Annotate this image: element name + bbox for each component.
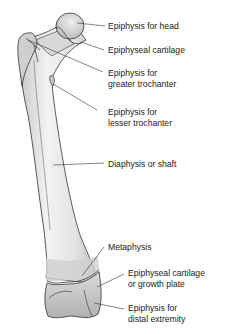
label-epiphysis-head: Epiphysis for head (108, 21, 179, 32)
label-diaphysis: Diaphysis or shaft (108, 159, 176, 170)
leader-lesser-trochanter (53, 84, 97, 110)
leader-growth-plate (97, 274, 124, 287)
label-epiphysis-lesser-trochanter: Epiphysis for lesser trochanter (108, 107, 172, 128)
label-epiphysis-greater-trochanter: Epiphysis for greater trochanter (108, 68, 176, 89)
label-epiphysis-distal: Epiphysis for distal extremity (128, 303, 185, 324)
label-metaphysis: Metaphysis (108, 242, 151, 253)
label-epiphyseal-cartilage-top: Epiphyseal cartilage (108, 45, 185, 56)
label-epiphyseal-cartilage-bottom: Epiphyseal cartilage or growth plate (128, 268, 205, 289)
femoral-head (56, 13, 84, 39)
leader-epiphyseal-cartilage-top (81, 42, 104, 50)
